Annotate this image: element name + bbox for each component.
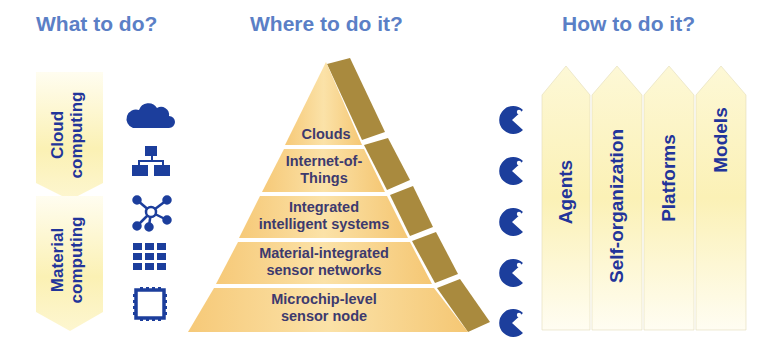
- hub-nodes-icon: [134, 197, 171, 231]
- agent-icon: [499, 208, 523, 236]
- pyramid-level-sensor-node: Microchip-level sensor node: [234, 291, 414, 325]
- agent-icons: [499, 106, 523, 337]
- material-label-line2: computing: [67, 205, 86, 315]
- agent-icon: [499, 157, 523, 185]
- material-computing-label: Material computing: [48, 205, 88, 315]
- how-label-models: Models: [709, 90, 733, 190]
- cloud-label-line1: Cloud: [48, 80, 67, 190]
- agent-icon: [499, 259, 523, 287]
- how-label-platforms: Platforms: [657, 128, 681, 228]
- how-label-agents: Agents: [554, 142, 578, 242]
- cloud-icon: [127, 103, 175, 128]
- material-label-line1: Material: [48, 205, 67, 315]
- network-hierarchy-icon: [132, 146, 170, 176]
- pyramid-level-sensor-networks: Material-integrated sensor networks: [234, 245, 414, 279]
- how-label-self-organization: Self-organization: [605, 133, 629, 283]
- grid-icon: [133, 243, 166, 270]
- cloud-label-line2: computing: [67, 80, 86, 190]
- microchip-frame-icon: [133, 287, 167, 321]
- pyramid-level-iot: Internet-of- Things: [264, 153, 384, 187]
- agent-icon: [499, 106, 523, 134]
- agent-icon: [499, 309, 523, 337]
- cloud-computing-label: Cloud computing: [48, 80, 88, 190]
- pyramid-level-clouds: Clouds: [276, 126, 376, 143]
- pyramid-level-integrated-systems: Integrated intelligent systems: [244, 199, 404, 233]
